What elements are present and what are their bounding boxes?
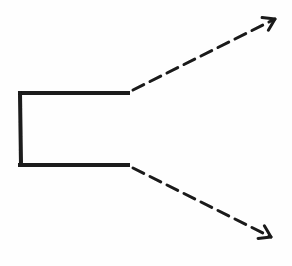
upper-dashed-arrow — [133, 18, 275, 90]
bracket-left-line — [20, 93, 21, 165]
arrowhead-icon — [262, 18, 275, 31]
diagram-canvas — [0, 0, 292, 266]
bracket-shape — [20, 93, 128, 165]
bracket-arrows-diagram — [0, 0, 292, 266]
lower-dashed-arrow — [133, 168, 271, 238]
arrow-shaft — [133, 168, 271, 237]
arrow-shaft — [133, 19, 275, 90]
